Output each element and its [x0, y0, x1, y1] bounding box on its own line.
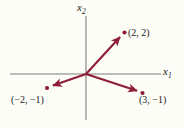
point-label-neg2-neg1: (−2, −1) — [11, 95, 44, 105]
point-label-2-2: (2, 2) — [128, 28, 150, 38]
vector-arrow-3-neg1 — [86, 74, 137, 91]
y-axis-label-subscript: 2 — [82, 7, 86, 16]
vector-plot-figure: x2 x1 (2, 2) (3, −1) (−2, −1) — [0, 0, 184, 129]
vector-arrow-2-2 — [86, 37, 120, 74]
y-axis-label: x2 — [77, 2, 86, 16]
vector-endpoint-dot-2-2 — [122, 30, 126, 34]
plot-canvas — [0, 0, 184, 129]
x-axis-label-subscript: 1 — [168, 71, 172, 80]
point-label-3-neg1: (3, −1) — [139, 95, 166, 105]
vector-arrow-neg2-neg1 — [53, 74, 86, 86]
x-axis-label: x1 — [163, 66, 172, 80]
vector-endpoint-dot-neg2-neg1 — [45, 86, 49, 90]
